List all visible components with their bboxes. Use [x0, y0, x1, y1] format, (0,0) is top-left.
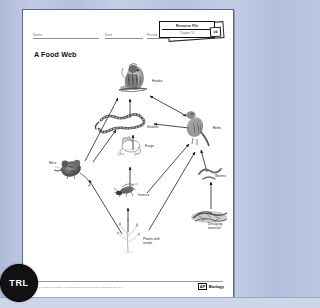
bottom-strip — [0, 297, 240, 308]
label-decaying-material: Decaying material — [208, 223, 223, 231]
publisher-logo: AP Biology — [198, 283, 224, 290]
arrow-birds-to-snakes — [154, 124, 189, 128]
trl-badge-label: TRL — [9, 278, 28, 288]
resource-file-box: Resource File Chapter 12 24 — [159, 21, 223, 39]
label-mice: Mice — [49, 162, 56, 166]
frog-illustration — [117, 137, 141, 156]
mouse-illustration — [54, 160, 90, 186]
arrow-plants-to-mice — [89, 180, 122, 234]
label-birds: Birds — [213, 127, 221, 131]
label-worms: Worms — [215, 175, 226, 179]
footer-divider — [33, 281, 223, 282]
label-hawks: Hawks — [152, 80, 162, 84]
date-field[interactable]: Date — [105, 29, 143, 39]
page-title: A Food Web — [34, 50, 77, 59]
label-insects: Insects — [138, 194, 149, 198]
label-frogs: Frogs — [145, 145, 154, 149]
name-field[interactable]: Name — [33, 29, 99, 39]
resource-file-front-card: Resource File Chapter 12 — [159, 21, 215, 38]
hawk-illustration — [119, 64, 147, 92]
arrow-insects-to-birds — [147, 144, 189, 193]
worksheet-page: Name Date Period Resource File Chapter 1… — [22, 9, 234, 299]
arrow-mice-to-snakes — [93, 130, 116, 162]
label-plants-with-seeds: Plants with seeds — [143, 238, 160, 246]
worksheet-header: Name Date Period Resource File Chapter 1… — [33, 21, 225, 39]
bird-illustration — [182, 111, 209, 146]
logo-mark: AP — [198, 283, 207, 290]
resource-file-number: 24 — [210, 27, 222, 38]
period-field-label: Period — [147, 33, 157, 37]
label-snakes: Snakes — [147, 126, 159, 130]
plant-illustration — [117, 218, 140, 253]
name-field-label: Name — [33, 33, 42, 37]
food-web-diagram: Hawks Snakes Birds Frogs Mice Worms Inse… — [23, 62, 233, 262]
footer-copyright: Unit 4 Pathways of matter in ecosystems … — [33, 286, 123, 289]
insect-illustration — [114, 184, 138, 197]
snake-illustration — [95, 114, 144, 132]
trl-badge[interactable]: TRL — [0, 264, 38, 302]
resource-file-subtitle: Chapter 12 — [160, 30, 214, 36]
logo-word: Biology — [209, 284, 224, 289]
date-field-label: Date — [105, 33, 112, 37]
